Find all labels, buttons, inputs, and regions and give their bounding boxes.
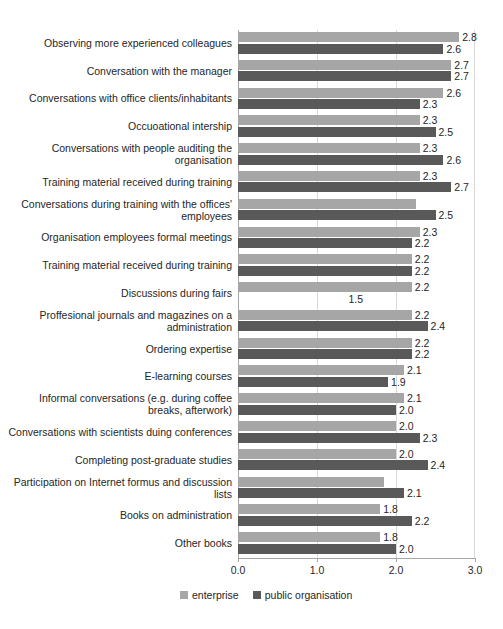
category-label: Other books [6,537,238,549]
bar-public [238,321,428,331]
bar-enterprise [238,115,420,125]
bar-public [238,210,436,220]
bar-enterprise [238,477,384,487]
bar-value-label: 2.2 [415,282,430,292]
bar-value-label: 1.8 [383,504,398,514]
bar-public [238,377,388,387]
bar-public [238,488,404,498]
bar-value-label: 1.8 [383,532,398,542]
bar-value-label: 2.4 [431,321,446,331]
bar-value-label: 2.3 [423,143,438,153]
category-label: Training material received during traini… [6,259,238,271]
x-axis-line [238,558,475,559]
bar-public [238,99,420,109]
category-label: Conversations with office clients/inhabi… [6,92,238,104]
bar-value-label: 2.2 [415,238,430,248]
bar-public [238,182,451,192]
bar-value-label: 2.3 [423,115,438,125]
category-label: Training material received during traini… [6,176,238,188]
bar-public [238,460,428,470]
bar-value-label: 2.3 [423,171,438,181]
bar-value-label: 2.1 [407,393,422,403]
bar-enterprise [238,171,420,181]
chart-legend: enterprisepublic organisation [180,589,352,601]
bar-enterprise [238,282,412,292]
bar-enterprise [238,449,396,459]
bar-public [238,44,443,54]
bar-value-label: 2.0 [399,544,414,554]
x-axis-tick [238,558,239,562]
bar-enterprise [238,532,380,542]
category-label: Discussions during fairs [6,287,238,299]
legend-item[interactable]: enterprise [180,589,239,601]
bar-value-label: 2.2 [415,338,430,348]
bar-enterprise [238,60,451,70]
bar-value-label: 2.2 [415,310,430,320]
bar-public [238,349,412,359]
plot-area: 2.82.62.72.72.62.32.32.52.32.62.32.72.52… [238,30,475,558]
bar-value-label: 2.4 [431,460,446,470]
bar-public [238,127,436,137]
bar-public [238,155,443,165]
category-label-column: Observing more experienced colleaguesCon… [0,30,238,558]
legend-label: public organisation [265,589,353,601]
bar-value-label: 2.2 [415,516,430,526]
bar-value-label: 1.9 [391,377,406,387]
category-label: E-learning courses [6,370,238,382]
bar-enterprise [238,393,404,403]
bar-public [238,71,451,81]
bar-enterprise [238,227,420,237]
category-label: Proffesional journals and magazines on a… [6,309,238,333]
category-label: Conversations with scientists duing conf… [6,426,238,438]
legend-swatch-icon [253,591,261,599]
bar-value-label: 2.2 [415,266,430,276]
category-label: Conversations during training with the o… [6,198,238,222]
bar-value-label: 2.8 [462,32,477,42]
bar-enterprise [238,199,416,209]
bar-public [238,266,412,276]
category-label: Completing post-graduate studies [6,454,238,466]
bar-public [238,544,396,554]
category-label: Conversation with the manager [6,65,238,77]
x-axis-tick-label: 0.0 [231,564,246,576]
bar-value-label: 2.7 [454,182,469,192]
bar-enterprise [238,32,459,42]
x-axis-tick-label: 1.0 [310,564,325,576]
bar-value-label: 2.1 [407,365,422,375]
bar-value-label: 2.3 [423,433,438,443]
x-axis-tick [475,558,476,562]
legend-label: enterprise [192,589,239,601]
bar-value-label: 2.1 [407,488,422,498]
bar-enterprise [238,88,443,98]
category-label: Observing more experienced colleagues [6,37,238,49]
bar-value-label: 2.7 [454,60,469,70]
legend-item[interactable]: public organisation [253,589,353,601]
legend-swatch-icon [180,591,188,599]
category-label: Ordering expertise [6,343,238,355]
bar-public [238,405,396,415]
bar-value-label: 2.0 [399,421,414,431]
bar-value-label: 2.2 [415,254,430,264]
x-axis-tick [396,558,397,562]
bar-value-label: 2.3 [423,227,438,237]
bar-public [238,433,420,443]
bar-enterprise [238,254,412,264]
category-label: Conversations with people auditing the o… [6,142,238,166]
x-axis-tick-label: 2.0 [389,564,404,576]
bar-value-label: 1.5 [349,294,364,304]
category-label: Books on administration [6,509,238,521]
bar-value-label: 2.0 [399,449,414,459]
category-label: Organisation employees formal meetings [6,231,238,243]
bar-enterprise [238,421,396,431]
bar-public [238,238,412,248]
bar-value-label: 2.6 [446,88,461,98]
bar-value-label: 2.5 [439,127,454,137]
bar-value-label: 2.6 [446,44,461,54]
x-axis-tick [317,558,318,562]
gridline-3 [474,30,475,558]
bar-value-label: 2.7 [454,71,469,81]
bar-public [238,516,412,526]
bar-value-label: 2.0 [399,405,414,415]
bar-value-label: 2.3 [423,99,438,109]
bar-enterprise [238,365,404,375]
